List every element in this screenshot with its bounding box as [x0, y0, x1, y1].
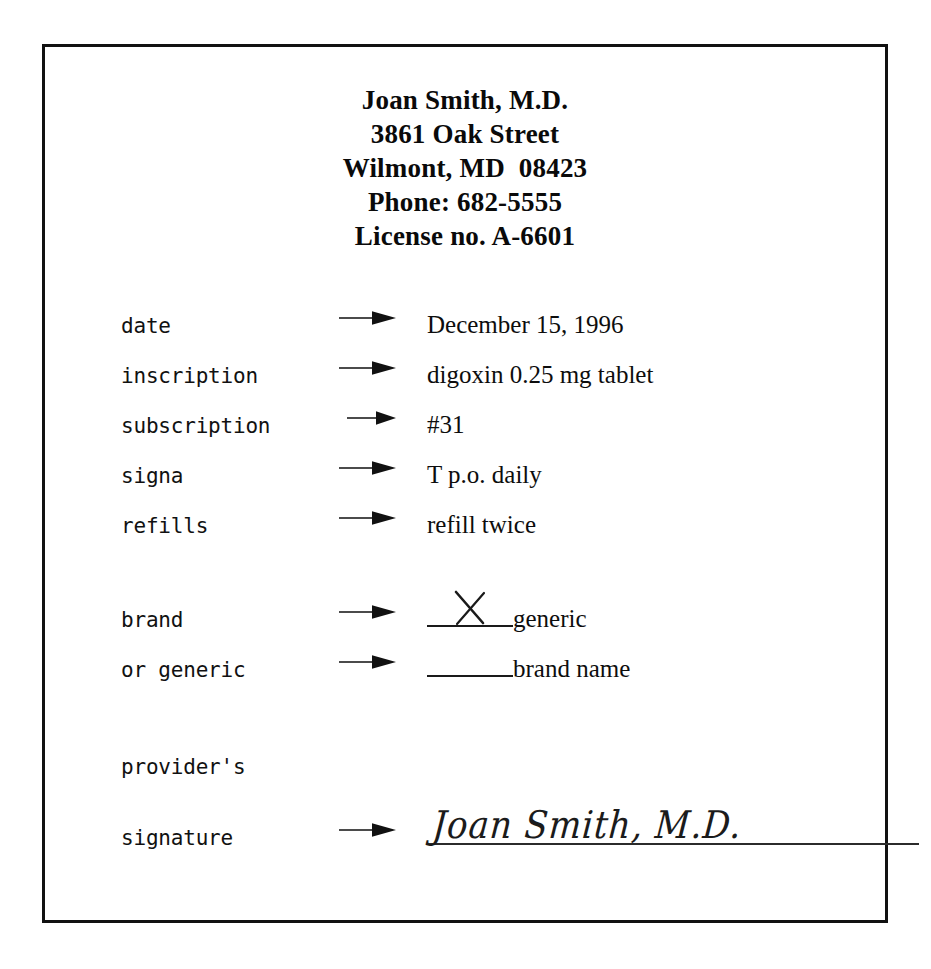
field-value-date: December 15, 1996 — [405, 311, 881, 339]
substitution-label-or-generic: or generic — [121, 658, 339, 682]
right-arrow-icon — [339, 651, 405, 673]
field-label-date: date — [121, 314, 339, 338]
right-arrow-icon — [339, 407, 405, 429]
field-row-subscription: subscription #31 — [121, 411, 881, 461]
signature-label-row-1: provider's — [121, 755, 881, 803]
right-arrow-icon — [339, 601, 405, 623]
field-value-subscription: #31 — [405, 411, 881, 439]
prescription-fields: date December 15, 1996 inscription digox… — [121, 311, 881, 851]
signature-label-line-1: provider's — [121, 755, 339, 779]
right-arrow-icon — [339, 819, 405, 841]
right-arrow-icon — [339, 307, 405, 329]
right-arrow-icon — [339, 457, 405, 479]
prescriber-license: License no. A-6601 — [45, 219, 885, 253]
field-value-inscription: digoxin 0.25 mg tablet — [405, 361, 881, 389]
prescriber-city-state-zip: Wilmont, MD 08423 — [45, 151, 885, 185]
field-label-subscription: subscription — [121, 414, 339, 438]
signature-label-row-2: signature Joan Smith, M.D. — [121, 803, 881, 851]
field-value-refills: refill twice — [405, 511, 881, 539]
signature-line[interactable]: Joan Smith, M.D. — [427, 803, 919, 845]
prescriber-street: 3861 Oak Street — [45, 117, 885, 151]
substitution-option-generic: generic — [513, 605, 587, 632]
field-row-signa: signa T p.o. daily — [121, 461, 881, 511]
substitution-row-or-generic: or generic brand name — [121, 649, 881, 699]
prescriber-phone: Phone: 682-5555 — [45, 185, 885, 219]
field-label-inscription: inscription — [121, 364, 339, 388]
generic-checkbox-blank[interactable] — [427, 599, 513, 627]
field-label-signa: signa — [121, 464, 339, 488]
right-arrow-icon — [339, 507, 405, 529]
field-row-date: date December 15, 1996 — [121, 311, 881, 361]
substitution-label-brand: brand — [121, 608, 339, 632]
field-label-refills: refills — [121, 514, 339, 538]
signature-handwriting: Joan Smith, M.D. — [431, 802, 744, 847]
x-mark-icon — [450, 590, 490, 626]
substitution-row-brand: brand generic — [121, 599, 881, 649]
field-value-signa: T p.o. daily — [405, 461, 881, 489]
substitution-value-generic: generic — [405, 599, 881, 633]
field-row-inscription: inscription digoxin 0.25 mg tablet — [121, 361, 881, 411]
right-arrow-icon — [339, 357, 405, 379]
brand-name-checkbox-blank[interactable] — [427, 649, 513, 677]
field-row-refills: refills refill twice — [121, 511, 881, 561]
substitution-value-brand-name: brand name — [405, 649, 881, 683]
signature-block: provider's signature Joan Smith, M.D. — [121, 755, 881, 851]
substitution-option-brand-name: brand name — [513, 655, 630, 682]
letterhead: Joan Smith, M.D. 3861 Oak Street Wilmont… — [45, 83, 885, 253]
signature-field[interactable]: Joan Smith, M.D. — [405, 803, 919, 845]
signature-label-line-2: signature — [121, 826, 339, 850]
prescriber-name: Joan Smith, M.D. — [45, 83, 885, 117]
prescription-form-frame: Joan Smith, M.D. 3861 Oak Street Wilmont… — [42, 44, 888, 923]
